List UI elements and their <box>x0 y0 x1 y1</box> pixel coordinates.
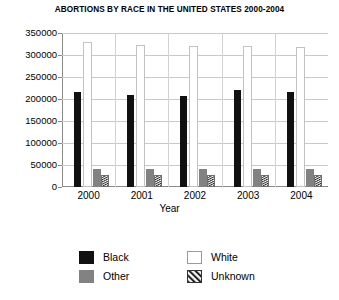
bar-white <box>136 45 145 187</box>
legend-label: Unknown <box>211 269 255 284</box>
bar-group <box>168 33 221 187</box>
bar-other <box>253 169 261 187</box>
bar-group <box>222 33 275 187</box>
y-axis-tick-label: 300000 <box>0 50 57 60</box>
bar-black <box>287 92 294 187</box>
bar-white <box>189 46 198 187</box>
bar-group <box>275 33 328 187</box>
bar-other <box>146 169 154 187</box>
bar-black <box>127 95 134 187</box>
y-axis-tick-label: 0 <box>0 182 57 192</box>
y-axis-tick-label: 150000 <box>0 116 57 126</box>
bar-unknown <box>261 175 269 187</box>
bar-unknown <box>154 175 162 187</box>
bar-other <box>306 169 314 187</box>
x-axis-tick-label: 2003 <box>222 190 275 202</box>
chart-title: ABORTIONS BY RACE IN THE UNITED STATES 2… <box>0 5 339 14</box>
category-separator <box>115 33 116 187</box>
y-axis-tick-label: 350000 <box>0 28 57 38</box>
y-axis-tick-label: 50000 <box>0 160 57 170</box>
solid-gray-swatch-icon <box>79 270 94 283</box>
bar-white <box>296 47 305 187</box>
legend-label: Other <box>103 269 129 284</box>
x-axis-title: Year <box>0 203 339 215</box>
bar-black <box>180 96 187 187</box>
solid-black-swatch-icon <box>79 251 94 264</box>
bar-group <box>115 33 168 187</box>
bar-group <box>62 33 115 187</box>
bar-black <box>74 92 81 187</box>
y-axis-tick-label: 250000 <box>0 72 57 82</box>
outline-white-swatch-icon <box>187 251 202 264</box>
bar-other <box>199 169 207 187</box>
x-axis-tick-label: 2000 <box>62 190 115 202</box>
y-axis-tick <box>58 187 62 188</box>
x-axis-tick-label: 2002 <box>168 190 221 202</box>
bar-chart: ABORTIONS BY RACE IN THE UNITED STATES 2… <box>0 0 339 300</box>
category-separator <box>222 33 223 187</box>
legend-label: White <box>211 250 238 265</box>
x-axis-tick-label: 2001 <box>115 190 168 202</box>
category-separator <box>168 33 169 187</box>
x-axis-tick-label: 2004 <box>275 190 328 202</box>
plot-area <box>62 33 328 187</box>
y-axis-tick-label: 100000 <box>0 138 57 148</box>
hatched-swatch-icon <box>187 270 202 283</box>
chart-legend: BlackWhiteOtherUnknown <box>79 250 279 290</box>
bar-unknown <box>207 175 215 187</box>
y-axis-tick-label: 200000 <box>0 94 57 104</box>
bar-unknown <box>101 175 109 187</box>
bar-black <box>234 90 241 187</box>
category-separator <box>275 33 276 187</box>
bar-white <box>83 42 92 187</box>
bar-other <box>93 169 101 187</box>
bar-white <box>243 46 252 187</box>
legend-label: Black <box>103 250 129 265</box>
bar-unknown <box>314 175 322 187</box>
